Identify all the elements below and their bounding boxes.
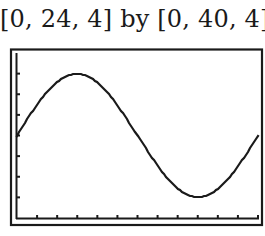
sine-curve: [17, 74, 258, 197]
screen-frame: [11, 50, 262, 226]
calculator-graph-screen: [0, 0, 265, 236]
